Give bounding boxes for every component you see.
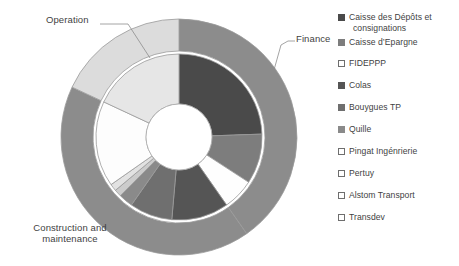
legend-swatch [338,170,345,177]
legend-label: Caisse d’Epargne [349,37,418,48]
legend-swatch [338,60,345,67]
legend-label: Transdev [349,212,385,223]
legend-item[interactable]: Transdev [338,212,456,223]
legend-swatch [338,214,345,221]
legend-item[interactable]: Quille [338,124,456,135]
legend-label: Colas [349,80,371,91]
legend-item[interactable]: Caisse des Dépôts etconsignations [338,12,456,33]
donut-hole [146,104,212,170]
legend-item[interactable]: Alstom Transport [338,190,456,201]
legend-label: Caisse des Dépôts etconsignations [349,12,432,33]
legend-item[interactable]: Caisse d’Epargne [338,37,456,48]
legend-swatch [338,14,345,21]
callout-label-finance: Finance [296,33,331,44]
legend-label: FIDEPPP [349,58,386,69]
callout-label-construction: Construction and maintenance [14,222,126,244]
legend-item[interactable]: Pertuy [338,168,456,179]
legend-swatch [338,39,345,46]
chart-canvas: Operation Finance Construction and maint… [0,0,459,266]
legend-item[interactable]: FIDEPPP [338,58,456,69]
legend-label: Alstom Transport [349,190,415,201]
callout-construction-line2: maintenance [42,233,98,244]
callout-label-operation: Operation [46,14,89,25]
legend-label: Pingat Ingénrierie [349,146,417,157]
legend-swatch [338,104,345,111]
chart-legend: Caisse des Dépôts etconsignationsCaisse … [338,12,456,234]
legend-label: Bouygues TP [349,102,401,113]
legend-item[interactable]: Colas [338,80,456,91]
legend-label: Quille [349,124,371,135]
legend-label-continuation: consignations [349,23,432,34]
legend-swatch [338,126,345,133]
legend-swatch [338,148,345,155]
legend-item[interactable]: Bouygues TP [338,102,456,113]
callout-construction-line1: Construction and [33,222,106,233]
legend-item[interactable]: Pingat Ingénrierie [338,146,456,157]
legend-label: Pertuy [349,168,374,179]
legend-swatch [338,82,345,89]
legend-swatch [338,192,345,199]
